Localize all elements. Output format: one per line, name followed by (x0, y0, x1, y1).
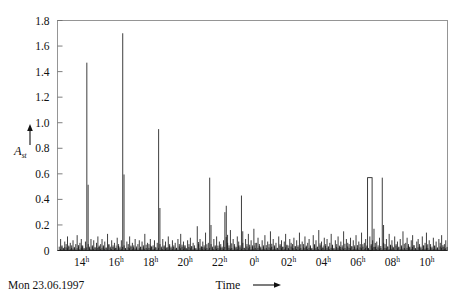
x-tick-label-14h: 14h (74, 255, 90, 268)
y-tick-label-0.8: 0.8 (35, 142, 50, 154)
x-tick-label-08h: 08h (385, 255, 401, 268)
date-label: Mon 23.06.1997 (8, 279, 85, 291)
y-tick-label-1.8: 1.8 (35, 15, 50, 27)
x-tick-label-10h: 10h (419, 255, 435, 268)
y-axis-title-main: A (13, 144, 22, 158)
y-tick-label-1.2: 1.2 (35, 91, 50, 103)
x-tick-label-20h: 20h (178, 255, 194, 268)
y-tick-label-0.4: 0.4 (35, 193, 50, 205)
y-tick-label-0.2: 0.2 (35, 219, 50, 231)
x-tick-label-18h: 18h (143, 255, 159, 268)
plot-frame (58, 21, 448, 251)
arrow-right-head-icon (274, 282, 281, 288)
x-tick-label-22h: 22h (212, 255, 228, 268)
x-tick-label-06h: 06h (350, 255, 366, 268)
x-tick-label-04h: 04h (316, 255, 332, 268)
y-tick-label-0: 0 (44, 245, 50, 257)
arrow-up-head-icon (27, 124, 33, 131)
data-series (58, 33, 448, 250)
y-tick-label-1.6: 1.6 (35, 40, 50, 52)
y-tick-label-0.6: 0.6 (35, 168, 50, 180)
y-axis-title: Ast (13, 144, 28, 160)
x-tick-label-16h: 16h (109, 255, 125, 268)
series-line-A_st (58, 33, 448, 250)
x-axis-title-group: Time (216, 278, 281, 292)
x-tick-label-02h: 02h (281, 255, 297, 268)
x-tick-label-0h: 0h (249, 255, 259, 268)
chart-svg: 00.20.40.60.81.01.21.41.61.8 14h16h18h20… (0, 0, 460, 303)
figure-container: 00.20.40.60.81.01.21.41.61.8 14h16h18h20… (0, 0, 460, 303)
y-tick-label-1.0: 1.0 (35, 117, 50, 129)
y-axis-title-group: Ast (13, 124, 33, 160)
y-axis-title-sub: st (22, 151, 28, 160)
y-axis: 00.20.40.60.81.01.21.41.61.8 (35, 15, 62, 257)
y-tick-label-1.4: 1.4 (35, 66, 50, 78)
x-axis-title: Time (216, 278, 241, 292)
